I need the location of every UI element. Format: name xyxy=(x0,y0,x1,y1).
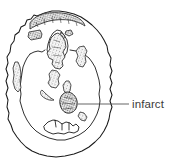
infarct-lesion xyxy=(60,92,77,113)
figure-background xyxy=(0,0,187,166)
basal-ganglia-left xyxy=(48,70,60,88)
lateral-strip-left xyxy=(13,62,21,92)
basal-ganglia-right xyxy=(76,46,87,67)
figure-root: infarct xyxy=(0,0,187,166)
brain-section-illustration xyxy=(0,0,187,166)
frontal-stippled-block-left xyxy=(28,30,42,40)
